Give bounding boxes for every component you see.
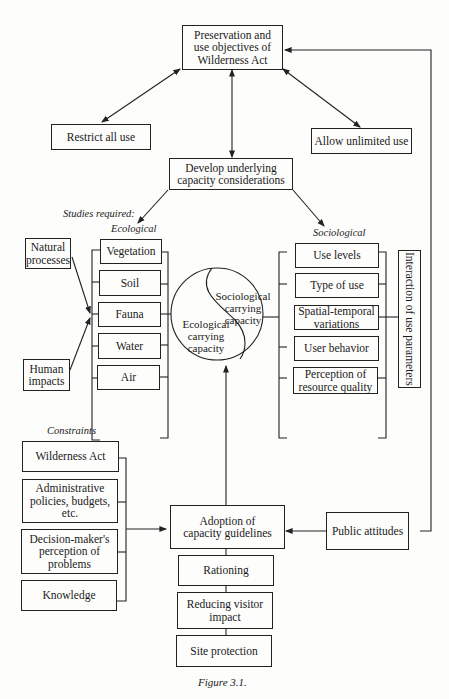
sociological-item: Use levels <box>295 243 379 268</box>
ecological-heading: Ecological <box>111 223 157 234</box>
sociological-item: Perception of resource quality <box>293 367 378 394</box>
studies-label: Studies required: <box>63 208 135 219</box>
public-attitudes-box: Public attitudes <box>326 512 409 550</box>
figure-caption: Figure 3.1. <box>198 676 247 688</box>
sociological-heading: Sociological <box>313 227 366 238</box>
natural-processes-box: Natural processes <box>25 238 71 269</box>
constraint-item: Wilderness Act <box>22 441 119 472</box>
outcome-item: Reducing visitor impact <box>177 592 273 629</box>
ecological-item: Fauna <box>98 302 161 327</box>
ecological-item: Soil <box>99 270 161 296</box>
constraints-heading: Constraints <box>47 425 96 436</box>
objectives-box: Preservation and use objectives of Wilde… <box>182 25 283 70</box>
develop-box: Develop underlying capacity consideratio… <box>169 158 293 190</box>
sociological-item: Type of use <box>295 273 379 298</box>
adoption-box: Adoption of capacity guidelines <box>170 505 285 549</box>
ecological-item: Vegetation <box>100 239 162 264</box>
constraint-item: Administrative policies, budgets, etc. <box>22 479 118 523</box>
ecological-capacity-label: Ecological carrying capacity <box>180 318 232 354</box>
sociological-item: Spatial-temporal variations <box>294 305 379 330</box>
allow-box: Allow unlimited use <box>311 128 412 154</box>
restrict-box: Restrict all use <box>51 124 151 150</box>
human-impacts-box: Human impacts <box>23 359 70 391</box>
constraint-item: Decision-maker's perception of problems <box>21 529 118 574</box>
ecological-item: Air <box>97 365 160 390</box>
outcome-item: Rationing <box>178 555 274 586</box>
outcome-item: Site protection <box>176 635 272 667</box>
ecological-item: Water <box>98 333 161 359</box>
interaction-box: Interaction of use parameters <box>398 250 421 388</box>
constraint-item: Knowledge <box>21 580 117 611</box>
sociological-item: User behavior <box>294 336 379 361</box>
